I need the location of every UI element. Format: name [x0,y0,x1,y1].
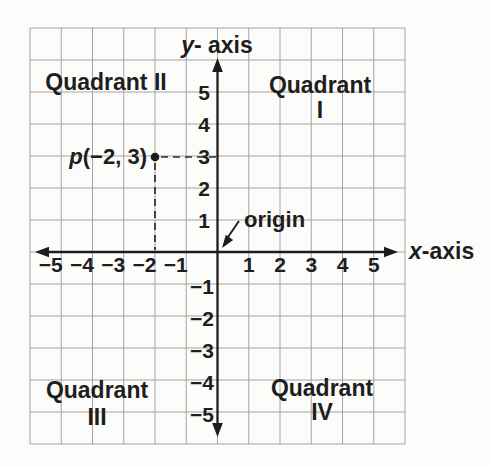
y-tick-pos-4: 4 [198,113,210,136]
quadrant-3-label-line1: Quadrant [46,377,149,403]
coordinate-plane-svg: y- axis x-axis Quadrant II Quadrant I Qu… [0,0,490,466]
x-tick-neg-4: −4 [70,253,94,276]
x-tick-pos-5: 5 [368,253,380,276]
y-axis-title-suffix: - axis [194,32,253,58]
x-tick-pos-3: 3 [305,253,317,276]
x-tick-pos-2: 2 [274,253,286,276]
x-tick-neg-5: −5 [39,253,63,276]
y-tick-pos-2: 2 [198,177,210,200]
x-tick-neg-3: −3 [101,253,125,276]
y-tick-pos-5: 5 [198,81,210,104]
point-p-label: p(−2, 3) [68,144,147,169]
y-tick-neg-5: −5 [190,403,214,426]
quadrant-1-label-line1: Quadrant [269,72,372,98]
coordinate-plane-figure: y- axis x-axis Quadrant II Quadrant I Qu… [0,0,490,466]
x-axis-title: x-axis [407,238,474,264]
y-tick-neg-2: −2 [190,307,214,330]
quadrant-4-label-line1: Quadrant [271,375,374,401]
y-tick-neg-1: −1 [190,275,214,298]
y-axis-title: y- axis [180,32,253,58]
origin-label: origin [244,207,305,232]
y-tick-neg-3: −3 [190,339,214,362]
quadrant-4-label-line2: IV [311,399,333,425]
x-tick-neg-1: −1 [164,253,188,276]
y-tick-neg-4: −4 [190,371,214,394]
y-axis-title-variable: y [180,32,195,58]
quadrant-1-label-line2: I [317,97,323,123]
point-p-label-variable: p [68,144,82,169]
point-p-label-coords: (−2, 3) [83,144,147,169]
x-tick-pos-1: 1 [243,253,255,276]
x-tick-pos-4: 4 [337,253,349,276]
quadrant-2-label: Quadrant II [45,69,166,95]
x-axis-title-variable: x [407,238,423,264]
y-tick-pos-1: 1 [198,209,210,232]
x-axis-title-suffix: -axis [422,238,474,264]
point-p-dot [151,153,160,162]
x-tick-neg-2: −2 [133,253,157,276]
quadrant-3-label-line2: III [87,404,106,430]
